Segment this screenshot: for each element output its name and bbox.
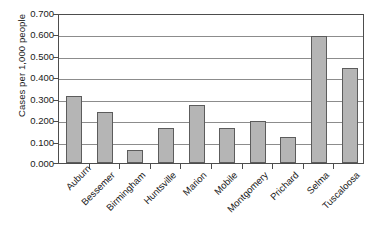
bar-slot — [59, 15, 90, 163]
x-axis-tick — [211, 164, 212, 169]
y-axis-tick-labels: 0.7000.6000.5000.4000.3000.2000.1000.000 — [14, 14, 54, 164]
bar[interactable] — [311, 36, 327, 163]
bar-chart: Cases per 1,000 people 0.7000.6000.5000.… — [0, 0, 381, 229]
x-axis-tick — [180, 164, 181, 169]
x-axis-ticks — [58, 164, 364, 169]
bar[interactable] — [66, 96, 82, 163]
bar-slot — [243, 15, 274, 163]
bar-slot — [181, 15, 212, 163]
y-axis-tick-label: 0.300 — [14, 95, 54, 105]
x-axis-tick — [303, 164, 304, 169]
y-axis-tick-label: 0.100 — [14, 138, 54, 148]
y-axis-tick-label: 0.200 — [14, 116, 54, 126]
x-axis-tick — [333, 164, 334, 169]
y-axis-tick-label: 0.600 — [14, 31, 54, 41]
x-axis-tick — [119, 164, 120, 169]
y-axis-tick-label: 0.400 — [14, 74, 54, 84]
bar[interactable] — [280, 137, 296, 163]
bar-slot — [151, 15, 182, 163]
bars-layer — [59, 15, 363, 163]
x-axis-tick — [242, 164, 243, 169]
bar[interactable] — [250, 121, 266, 163]
bar[interactable] — [342, 68, 358, 163]
bar-slot — [334, 15, 365, 163]
bar-slot — [304, 15, 335, 163]
y-axis-tick-label: 0.000 — [14, 159, 54, 169]
bar[interactable] — [97, 112, 113, 163]
bar[interactable] — [127, 150, 143, 164]
x-axis-tick — [150, 164, 151, 169]
x-axis-tick-labels: AuburnBessemerBirminghamHuntsvilleMarion… — [58, 170, 364, 229]
bar-slot — [273, 15, 304, 163]
bar[interactable] — [189, 105, 205, 164]
bar[interactable] — [219, 128, 235, 163]
x-axis-tick-label: Auburn — [64, 170, 86, 192]
x-axis-tick — [272, 164, 273, 169]
plot-area — [58, 14, 364, 164]
y-axis-tick-label: 0.700 — [14, 9, 54, 19]
y-axis-tick-label: 0.500 — [14, 52, 54, 62]
bar[interactable] — [158, 128, 174, 163]
bar-slot — [212, 15, 243, 163]
bar-slot — [90, 15, 121, 163]
bar-slot — [120, 15, 151, 163]
